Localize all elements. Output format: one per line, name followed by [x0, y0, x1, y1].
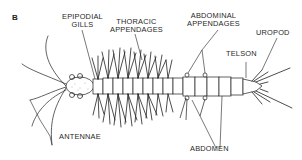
anatomy-figure: B — [0, 0, 302, 160]
label-thoracic-line2: APPENDAGES — [110, 26, 163, 34]
label-abdominal-line2: APPENDAGES — [187, 20, 240, 28]
label-abdominal-appendages: ABDOMINAL APPENDAGES — [187, 12, 240, 29]
label-antennae: ANTENNAE — [59, 133, 101, 141]
label-epipodial-gills: EPIPODIAL GILLS — [62, 13, 103, 30]
label-abdomen: ABDOMEN — [190, 145, 229, 153]
label-thoracic-appendages: THORACIC APPENDAGES — [110, 18, 163, 35]
label-uropod: UROPOD — [256, 29, 290, 37]
label-telson: TELSON — [226, 50, 257, 58]
label-epipodial-gills-line2: GILLS — [62, 21, 103, 29]
